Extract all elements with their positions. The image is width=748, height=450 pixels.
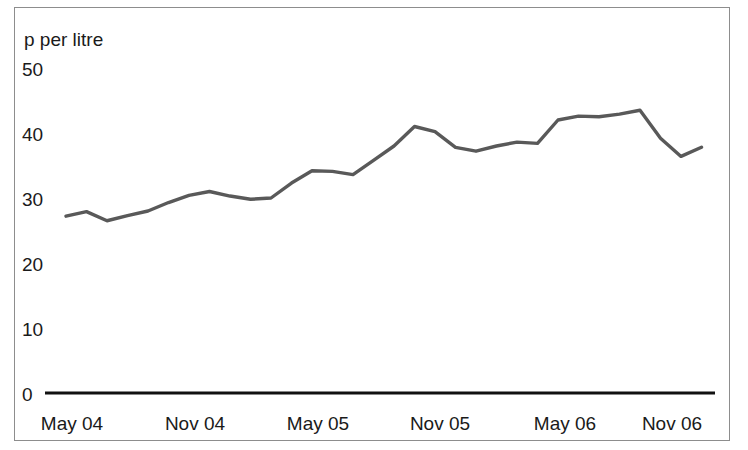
plot-area — [0, 0, 748, 450]
data-series-line — [66, 110, 702, 221]
chart-figure: p per litre 50 40 30 20 10 0 May 04 Nov … — [0, 0, 748, 450]
